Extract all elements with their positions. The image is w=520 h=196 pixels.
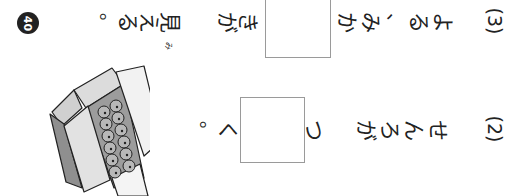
orange-box-illustration	[44, 60, 150, 196]
item-3-number: (3)	[484, 8, 506, 35]
item-3-answer-box[interactable]	[265, 0, 331, 58]
item-2-number: (2)	[484, 116, 506, 143]
page-number-badge: 40	[17, 12, 39, 34]
item-3-text-after: きが見える。	[98, 10, 258, 34]
item-2-text-before: せんろが	[350, 118, 450, 142]
worksheet-page: 40 (3) よる、みか きが見える。 み (2) せんろが つ く。	[0, 0, 520, 196]
item-2-text-after: く。	[200, 118, 238, 142]
item-3-text-before: よる、みか	[335, 10, 455, 34]
item-2-answer-box[interactable]	[240, 97, 305, 163]
page-number: 40	[22, 15, 35, 30]
ruby-mi: み	[164, 42, 175, 50]
